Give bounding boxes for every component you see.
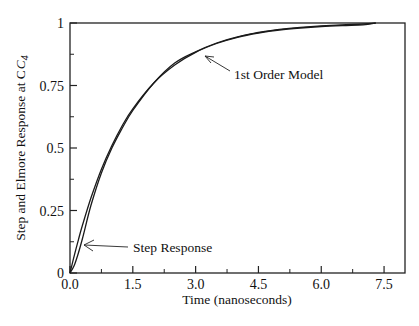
annotation-step-response: Step Response bbox=[84, 240, 212, 255]
y-tick-label: 0.5 bbox=[47, 141, 65, 156]
y-tick-label: 1 bbox=[57, 16, 64, 31]
y-axis-label: Step and Elmore Response at CC4 bbox=[13, 55, 30, 241]
y-tick-label: 0 bbox=[57, 266, 64, 281]
series-line-1st-order-model bbox=[70, 23, 376, 273]
plot-frame bbox=[70, 23, 405, 273]
series-line-step-response bbox=[70, 23, 376, 273]
annotation-label: 1st Order Model bbox=[234, 67, 323, 82]
x-tick-label: 7.5 bbox=[375, 277, 393, 292]
x-tick-label: 1.5 bbox=[124, 277, 142, 292]
x-tick-label: 6.0 bbox=[313, 277, 331, 292]
x-tick-label: 3.0 bbox=[187, 277, 205, 292]
annotation-1st-order-model: 1st Order Model bbox=[205, 56, 323, 82]
x-axis-label: Time (nanoseconds) bbox=[182, 292, 291, 307]
y-tick-label: 0.75 bbox=[40, 79, 65, 94]
series-lines bbox=[70, 23, 376, 273]
annotation-arrow bbox=[84, 245, 128, 247]
y-axis-ticks: 00.250.50.751 bbox=[40, 16, 78, 281]
chart: 0.01.53.04.56.07.5 00.250.50.751 Time (n… bbox=[0, 0, 419, 326]
annotation-arrow bbox=[205, 56, 230, 71]
x-tick-label: 4.5 bbox=[250, 277, 268, 292]
x-axis-ticks: 0.01.53.04.56.07.5 bbox=[61, 266, 393, 292]
arrow-head-icon bbox=[205, 56, 214, 63]
y-tick-label: 0.25 bbox=[40, 204, 65, 219]
annotation-label: Step Response bbox=[133, 240, 212, 255]
